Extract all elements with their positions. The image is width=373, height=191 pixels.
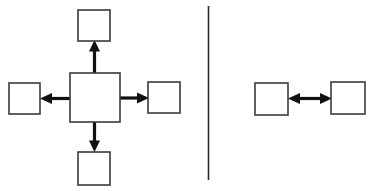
node-box-pair-right[interactable]	[331, 82, 365, 114]
star-topology-panel	[9, 10, 180, 185]
node-box-pair-left[interactable]	[255, 83, 288, 115]
node-box-left[interactable]	[9, 83, 40, 114]
diagram-svg	[0, 0, 373, 191]
edge-center-to-right	[120, 93, 149, 104]
pair-topology-panel	[255, 82, 365, 115]
arrow-head-left-icon	[40, 93, 52, 104]
edge-center-to-left	[40, 93, 70, 104]
edge-pair-bidirectional	[288, 93, 332, 104]
arrow-head-right-icon	[137, 93, 149, 104]
arrow-head-down-icon	[89, 141, 100, 153]
node-box-right[interactable]	[148, 82, 180, 113]
node-box-bottom[interactable]	[78, 152, 110, 185]
node-box-top[interactable]	[78, 10, 110, 41]
node-box-center[interactable]	[70, 73, 120, 122]
edge-center-to-bottom	[89, 122, 100, 152]
diagram-canvas	[0, 0, 373, 191]
arrow-head-left-pair-icon	[288, 93, 300, 104]
edge-center-to-top	[89, 40, 100, 73]
